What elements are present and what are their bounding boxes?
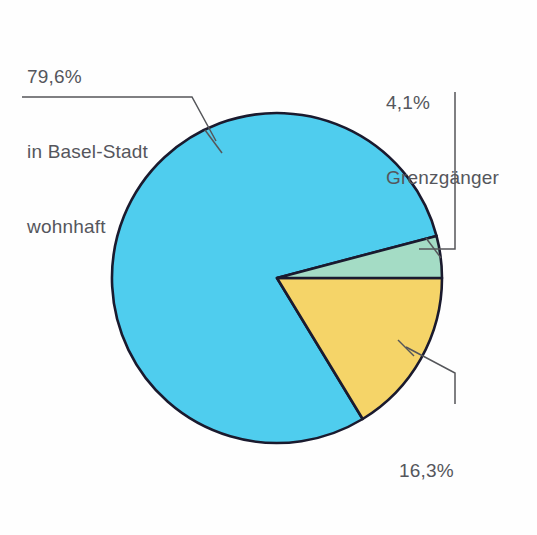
pie-label-wohnhaft-percent: 79,6% <box>27 64 148 89</box>
pie-label-grenzgaenger: 4,1% Grenzgänger <box>386 40 499 240</box>
pie-label-wohnhaft-line1: in Basel-Stadt <box>27 139 148 164</box>
pie-label-grenzgaenger-line1: Grenzgänger <box>386 165 499 190</box>
pie-label-wohnhaft: 79,6% in Basel-Stadt wohnhaft <box>27 14 148 289</box>
pie-label-wohnhaft-line2: wohnhaft <box>27 214 148 239</box>
pie-chart: 79,6% in Basel-Stadt wohnhaft 4,1% Grenz… <box>0 0 537 535</box>
pie-label-grenzgaenger-percent: 4,1% <box>386 90 499 115</box>
pie-label-pendler-percent: 16,3% <box>399 458 503 483</box>
pie-label-pendler: 16,3% Pendler aus anderen Kantonen <box>399 408 503 535</box>
